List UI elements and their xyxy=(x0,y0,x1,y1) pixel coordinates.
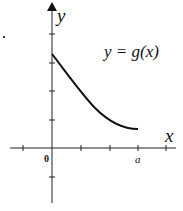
origin-label: 0 xyxy=(44,153,49,164)
equation-label: y = g(x) xyxy=(102,42,159,61)
graph: y x 0 a y = g(x) xyxy=(0,0,183,211)
y-axis-arrow-icon xyxy=(47,2,57,11)
y-axis-label: y xyxy=(55,5,66,26)
stray-mark xyxy=(3,36,5,38)
x-axis-label: x xyxy=(164,125,174,146)
tick-label-a: a xyxy=(135,153,141,165)
curve-g xyxy=(52,54,138,129)
